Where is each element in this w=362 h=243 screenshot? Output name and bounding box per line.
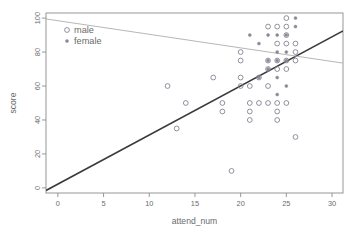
- data-point-male: [238, 58, 243, 63]
- data-point-male: [275, 67, 280, 72]
- legend-label-male: male: [74, 25, 94, 35]
- x-tick-label: 5: [102, 199, 106, 208]
- data-point-male: [293, 135, 298, 140]
- data-point-male: [266, 101, 271, 106]
- data-point-male: [229, 169, 234, 174]
- x-tick-label: 0: [56, 199, 60, 208]
- y-tick-label: 80: [34, 48, 43, 56]
- data-point-female: [294, 25, 297, 28]
- y-tick-label: 60: [34, 82, 43, 90]
- data-point-male: [247, 118, 252, 123]
- data-point-male: [183, 101, 188, 106]
- data-point-female: [267, 68, 270, 71]
- data-point-male: [266, 24, 271, 29]
- data-point-female: [285, 51, 288, 54]
- data-point-male: [220, 101, 225, 106]
- y-axis-title: score: [8, 92, 18, 113]
- series-female: [248, 17, 297, 96]
- x-tick-label: 15: [191, 199, 199, 208]
- data-point-male: [275, 118, 280, 123]
- y-tick-label: 0: [34, 186, 43, 190]
- x-axis-title: attend_num: [172, 216, 217, 226]
- data-point-female: [276, 59, 279, 62]
- data-point-female: [267, 59, 270, 62]
- data-point-female: [257, 42, 260, 45]
- data-point-male: [293, 41, 298, 46]
- x-tick-label: 30: [328, 199, 336, 208]
- data-point-female: [276, 76, 279, 79]
- data-point-male: [211, 75, 216, 80]
- data-point-male: [275, 109, 280, 114]
- x-axis: 051015202530: [56, 193, 336, 208]
- data-point-male: [284, 67, 289, 72]
- data-point-male: [247, 101, 252, 106]
- data-point-female: [285, 34, 288, 37]
- data-point-female: [285, 59, 288, 62]
- legend: malefemale: [65, 25, 102, 46]
- legend-label-female: female: [74, 36, 102, 46]
- data-point-female: [276, 34, 279, 37]
- x-tick-label: 10: [145, 199, 153, 208]
- plot-canvas: 051015202530020406080100attend_numscorem…: [0, 0, 362, 243]
- y-tick-label: 20: [34, 150, 43, 158]
- data-point-female: [248, 34, 251, 37]
- data-point-male: [284, 24, 289, 29]
- data-point-male: [247, 84, 252, 89]
- data-point-male: [275, 101, 280, 106]
- data-point-male: [238, 50, 243, 55]
- y-tick-label: 100: [34, 12, 43, 24]
- legend-marker-female: [66, 40, 69, 43]
- data-point-male: [266, 84, 271, 89]
- scatter-plot-figure: 051015202530020406080100attend_numscorem…: [0, 0, 362, 243]
- data-point-male: [284, 41, 289, 46]
- data-point-male: [238, 75, 243, 80]
- regression-line-male-fit: [46, 31, 343, 191]
- data-point-male: [284, 101, 289, 106]
- data-point-male: [293, 50, 298, 55]
- y-axis: 020406080100: [34, 12, 47, 190]
- data-point-male: [220, 109, 225, 114]
- data-point-male: [275, 24, 280, 29]
- data-point-male: [275, 41, 280, 46]
- data-point-male: [165, 84, 170, 89]
- data-point-male: [293, 58, 298, 63]
- y-tick-label: 40: [34, 116, 43, 124]
- data-point-female: [267, 34, 270, 37]
- data-point-female: [257, 76, 260, 79]
- data-point-female: [276, 93, 279, 96]
- x-tick-label: 25: [282, 199, 290, 208]
- data-point-female: [294, 17, 297, 20]
- data-point-female: [285, 85, 288, 88]
- data-point-male: [174, 126, 179, 131]
- data-point-male: [284, 16, 289, 21]
- data-point-male: [247, 109, 252, 114]
- x-tick-label: 20: [237, 199, 245, 208]
- data-point-male: [257, 101, 262, 106]
- data-point-female: [276, 51, 279, 54]
- legend-marker-male: [65, 28, 70, 33]
